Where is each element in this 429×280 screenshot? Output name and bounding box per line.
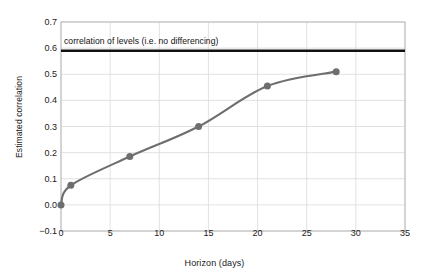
x-tick-label: 20 bbox=[245, 228, 271, 238]
x-tick-label: 15 bbox=[195, 228, 221, 238]
x-tick-label: 0 bbox=[48, 228, 74, 238]
x-axis-title: Horizon (days) bbox=[0, 258, 429, 268]
y-axis-title: Estimated correlation bbox=[14, 62, 24, 172]
x-tick-label: 30 bbox=[343, 228, 369, 238]
y-tick-label: 0.7 bbox=[31, 17, 57, 27]
x-tick-label: 5 bbox=[97, 228, 123, 238]
y-tick-label: 0.3 bbox=[31, 122, 57, 132]
hline-annotation-label: correlation of levels (i.e. no differenc… bbox=[64, 36, 218, 46]
y-tick-label: 0.4 bbox=[31, 95, 57, 105]
y-tick-label: 0.0 bbox=[31, 200, 57, 210]
y-tick-label: 0.5 bbox=[31, 69, 57, 79]
y-tick-label: 0.6 bbox=[31, 43, 57, 53]
x-tick-label: 10 bbox=[146, 228, 172, 238]
x-tick-label: 25 bbox=[294, 228, 320, 238]
y-tick-label: 0.1 bbox=[31, 174, 57, 184]
x-axis-ticks: 05101520253035 bbox=[0, 228, 429, 248]
chart-figure: −0.10.00.10.20.30.40.50.60.7 05101520253… bbox=[0, 0, 429, 280]
x-tick-label: 35 bbox=[392, 228, 418, 238]
y-tick-label: 0.2 bbox=[31, 148, 57, 158]
